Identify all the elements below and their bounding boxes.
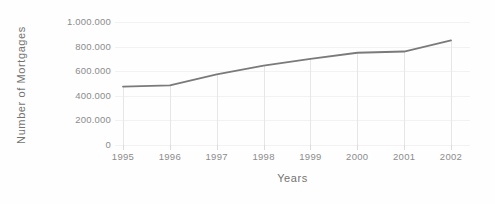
x-tick-mark xyxy=(451,145,452,150)
x-tick-mark xyxy=(217,145,218,150)
series-line xyxy=(115,22,470,145)
x-tick-mark xyxy=(123,145,124,150)
x-tick-label: 2000 xyxy=(346,151,368,163)
x-tick-mark xyxy=(264,145,265,150)
x-tick-label: 1998 xyxy=(252,151,274,163)
x-tick-mark xyxy=(357,145,358,150)
x-tick-mark xyxy=(404,145,405,150)
x-axis-tick-labels: 19951996199719981999200020012002 xyxy=(115,151,470,165)
y-tick-label: 0 xyxy=(39,140,111,150)
x-tick-label: 1995 xyxy=(112,151,134,163)
x-axis-title: Years xyxy=(115,172,470,184)
y-tick-label: 1.000.000 xyxy=(39,17,111,27)
x-tick-mark xyxy=(310,145,311,150)
y-axis-title: Number of Mortgages xyxy=(10,0,32,170)
mortgages-line-chart: Number of Mortgages 0200.000400.000600.0… xyxy=(0,0,495,204)
x-tick-label: 2002 xyxy=(440,151,462,163)
y-tick-label: 600.000 xyxy=(39,66,111,76)
series-polyline xyxy=(123,40,451,86)
y-axis-tick-labels: 0200.000400.000600.000800.0001.000.000 xyxy=(35,22,111,145)
y-tick-label: 800.000 xyxy=(39,42,111,52)
x-tick-label: 1997 xyxy=(206,151,228,163)
x-tick-label: 1996 xyxy=(159,151,181,163)
x-tick-label: 1999 xyxy=(299,151,321,163)
x-tick-mark xyxy=(170,145,171,150)
y-tick-label: 200.000 xyxy=(39,115,111,125)
y-tick-label: 400.000 xyxy=(39,91,111,101)
plot-area xyxy=(115,22,470,145)
x-tick-label: 2001 xyxy=(393,151,415,163)
y-axis-title-text: Number of Mortgages xyxy=(15,26,27,144)
